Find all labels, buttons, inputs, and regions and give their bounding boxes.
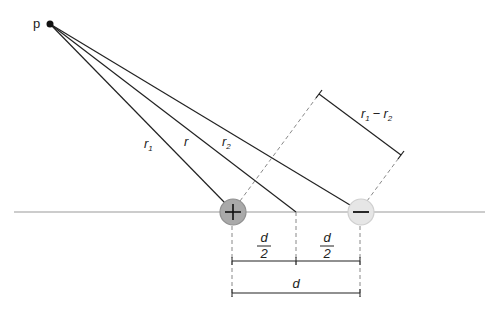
bracket-tick-start [316,90,322,98]
svg-text:d: d [323,230,331,245]
bracket-tick-end [398,151,404,159]
half-separation-left: d 2 [257,230,271,261]
label-r2: r2 [222,134,231,151]
difference-bracket [319,94,401,155]
difference-label: r1−r2 [361,106,393,123]
positive-charge [220,199,246,225]
line-r [50,24,296,212]
negative-charge [348,199,374,225]
label-r1: r1 [144,136,153,153]
dipole-diagram: p r1−r2 r1 r r2 d 2 d 2 d [0,0,499,310]
separation-label: d [292,276,300,291]
label-r: r [184,134,189,149]
half-separation-right: d 2 [320,230,334,261]
svg-text:2: 2 [259,246,268,261]
svg-text:2: 2 [322,246,331,261]
point-p-icon [47,21,54,28]
dashed-projection-positive [240,94,319,201]
dashed-projection-negative [367,155,401,201]
svg-text:d: d [260,230,268,245]
point-p-label: p [33,16,40,31]
